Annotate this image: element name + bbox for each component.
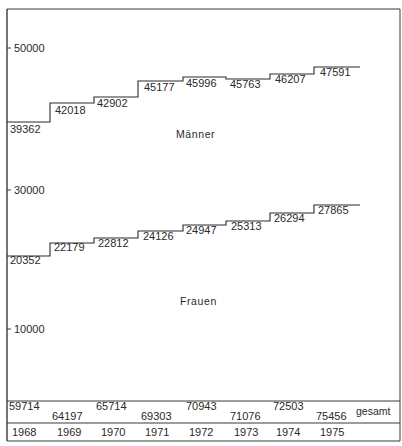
year-label: 1973: [234, 426, 258, 438]
women-value: 22179: [54, 241, 85, 253]
total-value: 71076: [230, 410, 261, 422]
year-label: 1968: [12, 426, 36, 438]
women-value-labels: 20352 22179 22812 24126 24947 25313 2629…: [10, 204, 349, 266]
men-value: 42018: [55, 104, 86, 116]
men-value: 46207: [275, 73, 306, 85]
total-label: gesamt: [356, 405, 391, 417]
year-label: 1970: [101, 426, 125, 438]
men-value: 45763: [230, 78, 261, 90]
total-value: 70943: [186, 400, 217, 412]
women-value: 24947: [186, 224, 217, 236]
total-value: 59714: [9, 400, 40, 412]
totals-row: 59714 64197 65714 69303 70943 71076 7250…: [9, 400, 391, 422]
women-value: 26294: [274, 212, 305, 224]
year-axis: 1968 1969 1970 1971 1972 1973 1974 1975: [12, 426, 344, 438]
total-value: 65714: [96, 400, 127, 412]
men-value: 42902: [97, 97, 128, 109]
y-tick-label: 30000: [14, 184, 45, 196]
women-value: 27865: [318, 204, 349, 216]
men-value-labels: 39362 42018 42902 45177 45996 45763 4620…: [10, 66, 351, 135]
women-value: 25313: [231, 220, 262, 232]
women-value: 22812: [98, 237, 129, 249]
women-value: 20352: [10, 254, 41, 266]
year-label: 1972: [189, 426, 213, 438]
women-series-label: Frauen: [180, 295, 217, 307]
total-value: 75456: [316, 410, 347, 422]
year-label: 1971: [145, 426, 169, 438]
year-label: 1969: [57, 426, 81, 438]
men-series-label: Männer: [176, 128, 215, 140]
step-chart: 50000 30000 10000 39362 42018 42902 4517…: [0, 0, 402, 446]
year-label: 1974: [276, 426, 300, 438]
total-value: 64197: [52, 410, 83, 422]
men-value: 45177: [144, 81, 175, 93]
men-value: 47591: [320, 66, 351, 78]
men-value: 39362: [10, 123, 41, 135]
y-tick-label: 50000: [14, 42, 45, 54]
men-value: 45996: [186, 77, 217, 89]
y-tick-label: 10000: [14, 323, 45, 335]
year-label: 1975: [320, 426, 344, 438]
total-value: 69303: [141, 410, 172, 422]
total-value: 72503: [273, 400, 304, 412]
women-value: 24126: [143, 230, 174, 242]
